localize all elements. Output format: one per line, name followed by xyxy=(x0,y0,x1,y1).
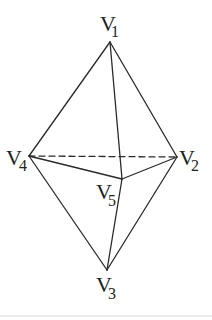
edge-v1-v5 xyxy=(110,42,122,179)
edge-v1-v4 xyxy=(29,42,110,156)
vertex-subscript-v2: 2 xyxy=(191,157,199,174)
edge-v1-v2 xyxy=(110,42,177,157)
vertex-subscript-v3: 3 xyxy=(108,285,116,302)
vertex-subscript-v1: 1 xyxy=(111,23,119,40)
vertex-subscript-v5: 5 xyxy=(108,192,116,209)
edge-v3-v2 xyxy=(107,157,177,270)
bipyramid-diagram: V 1 V 2 V 3 V 4 V 5 xyxy=(0,0,212,320)
vertex-subscript-v4: 4 xyxy=(19,157,27,174)
edge-v5-v2 xyxy=(122,157,177,179)
edge-v3-v4 xyxy=(29,156,107,270)
edge-v4-v2 xyxy=(29,156,177,157)
edges-group xyxy=(29,42,177,270)
